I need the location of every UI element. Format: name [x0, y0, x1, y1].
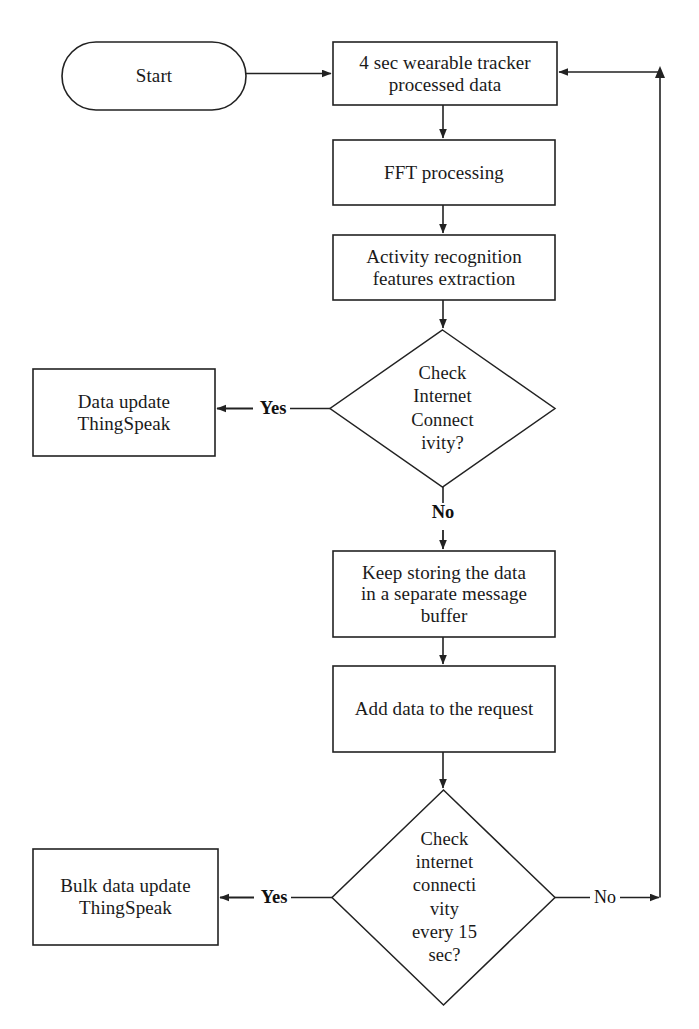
edge-label-yes-top: Yes [253, 399, 293, 418]
shape-keep-storing-process [333, 551, 555, 637]
shape-add-data-process [333, 666, 555, 752]
shape-fft-process [333, 140, 555, 205]
shape-check-internet-1-decision [330, 330, 555, 487]
edge-label-no-top: No [423, 503, 463, 522]
shape-start-terminator [62, 42, 246, 110]
shape-bulk-update-process [33, 849, 218, 945]
flowchart-shapes-and-connectors [0, 0, 699, 1029]
shape-wearable-data-process [333, 42, 557, 105]
edge-label-yes-bottom: Yes [254, 888, 294, 907]
edge-label-no-bottom: No [589, 888, 621, 906]
shape-data-update-process [33, 369, 215, 456]
shape-activity-process [333, 235, 555, 300]
flowchart-canvas: Start 4 sec wearable tracker processed d… [0, 0, 699, 1029]
shape-check-internet-2-decision [332, 790, 555, 1005]
connector-feedback-loop-to-wearable [559, 72, 660, 898]
